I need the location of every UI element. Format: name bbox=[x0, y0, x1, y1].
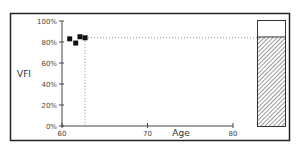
bar-fill bbox=[257, 37, 285, 126]
chart-frame bbox=[11, 14, 290, 141]
y-axis-title: VFI bbox=[17, 69, 31, 79]
data-point-marker bbox=[67, 36, 72, 41]
data-point-marker bbox=[77, 34, 82, 39]
x-axis-title: Age bbox=[172, 128, 190, 138]
x-tick-label: 60 bbox=[58, 130, 67, 138]
y-tick-label: 60% bbox=[41, 60, 57, 68]
y-tick-label: 80% bbox=[41, 39, 57, 47]
vfi-chart: 0%20%40%60%80%100%607080 VFI Age bbox=[0, 0, 297, 145]
data-point-marker bbox=[83, 35, 88, 40]
y-tick-label: 0% bbox=[46, 123, 57, 131]
data-point-marker bbox=[73, 41, 78, 46]
x-tick-label: 80 bbox=[229, 130, 238, 138]
y-tick-label: 20% bbox=[41, 102, 57, 110]
y-tick-label: 40% bbox=[41, 81, 57, 89]
y-tick-label: 100% bbox=[37, 18, 57, 26]
x-tick-label: 70 bbox=[143, 130, 152, 138]
